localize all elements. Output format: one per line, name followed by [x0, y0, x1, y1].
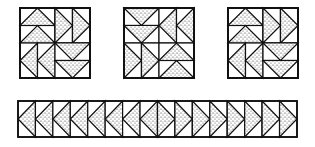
- block-1: [20, 8, 90, 78]
- flying-goose-unit: [227, 101, 244, 137]
- flying-goose-unit: [140, 101, 157, 137]
- flying-goose-unit: [88, 101, 105, 137]
- block-2: [124, 8, 194, 78]
- flying-goose-unit: [158, 101, 175, 137]
- quilt-diagram: [0, 0, 315, 147]
- flying-goose-unit: [55, 8, 73, 43]
- flying-goose-unit: [123, 101, 140, 137]
- flying-goose-unit: [35, 101, 52, 137]
- flying-goose-unit: [20, 26, 55, 44]
- flying-goose-unit: [20, 8, 55, 26]
- flying-goose-unit: [228, 8, 263, 26]
- flying-goose-unit: [159, 43, 194, 61]
- flying-goose-unit: [228, 26, 263, 44]
- flying-goose-unit: [246, 43, 264, 78]
- flying-goose-unit: [281, 8, 299, 43]
- flying-goose-unit: [55, 43, 90, 61]
- flying-goose-unit: [263, 8, 281, 43]
- flying-goose-unit: [159, 8, 177, 43]
- flying-goose-unit: [124, 43, 142, 78]
- flying-goose-unit: [177, 8, 195, 43]
- flying-goose-unit: [20, 43, 38, 78]
- flying-goose-unit: [263, 61, 298, 79]
- flying-goose-unit: [280, 101, 297, 137]
- flying-goose-unit: [70, 101, 87, 137]
- flying-goose-unit: [245, 101, 262, 137]
- flying-goose-unit: [124, 8, 159, 26]
- flying-goose-unit: [105, 101, 122, 137]
- flying-goose-unit: [55, 61, 90, 79]
- flying-goose-unit: [53, 101, 70, 137]
- flying-goose-unit: [175, 101, 192, 137]
- block-3: [228, 8, 298, 78]
- flying-goose-unit: [263, 43, 298, 61]
- flying-goose-unit: [124, 26, 159, 44]
- flying-goose-unit: [210, 101, 227, 137]
- flying-goose-unit: [73, 8, 91, 43]
- flying-goose-unit: [228, 43, 246, 78]
- flying-goose-unit: [142, 43, 160, 78]
- border-strip: [18, 101, 297, 137]
- flying-goose-unit: [159, 61, 194, 79]
- flying-goose-unit: [262, 101, 279, 137]
- flying-goose-unit: [38, 43, 56, 78]
- flying-goose-unit: [18, 101, 35, 137]
- flying-goose-unit: [192, 101, 209, 137]
